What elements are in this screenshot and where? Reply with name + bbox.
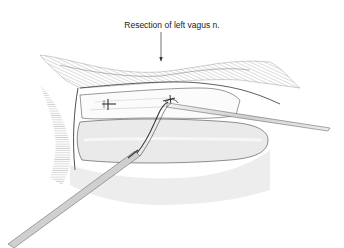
esophagus — [77, 119, 268, 163]
arrow-pointer — [159, 32, 162, 62]
surgical-illustration — [0, 0, 344, 248]
